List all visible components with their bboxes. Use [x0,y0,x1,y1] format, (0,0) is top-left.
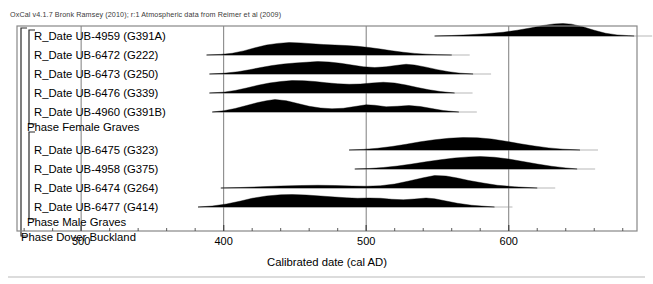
distribution-curve [209,62,473,75]
x-axis-title: Calibrated date (cal AD) [267,256,387,268]
row-labels: R_Date UB-4959 (G391A)R_Date UB-6472 (G2… [21,30,166,243]
distribution-curve [212,100,459,113]
distribution-curve [207,43,452,56]
date-row-label: R_Date UB-6476 (G339) [34,87,159,99]
date-row-label: R_Date UB-6472 (G222) [34,49,159,61]
date-row-label: R_Date UB-6477 (G414) [34,201,159,213]
distribution-curve [355,157,577,170]
distribution-curve [435,24,635,37]
oxcal-plot-page: OxCal v4.1.7 Bronk Ramsey (2010); r:1 At… [0,0,653,284]
calibration-multiplot: R_Date UB-4959 (G391A)R_Date UB-6472 (G2… [0,0,653,284]
date-row-label: R_Date UB-6473 (G250) [34,68,159,80]
date-row-label: R_Date UB-6475 (G323) [34,144,159,156]
x-tick-label: 400 [214,235,232,247]
date-row-label: R_Date UB-4959 (G391A) [34,30,166,42]
date-row-label: R_Date UB-4960 (G391B) [34,106,166,118]
phase-label: Phase Male Graves [27,216,127,228]
x-tick-label: 600 [500,235,518,247]
phase-label: Phase Female Graves [27,121,140,133]
date-row-label: R_Date UB-6474 (G264) [34,182,159,194]
x-tick-label: 500 [357,235,375,247]
probability-distributions [198,24,634,208]
distribution-curve [209,81,454,94]
distribution-curve [349,138,580,151]
distribution-curve [198,195,494,208]
date-row-label: R_Date UB-4958 (G375) [34,163,159,175]
x-tick-label: 300 [72,235,90,247]
distribution-curve [221,176,537,189]
